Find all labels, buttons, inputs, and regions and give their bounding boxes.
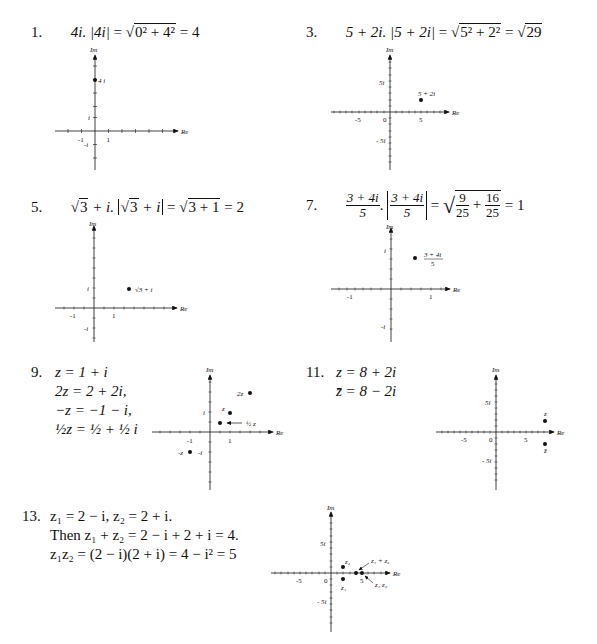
point-label: 4 i — [98, 77, 105, 85]
point-label: z — [543, 410, 547, 418]
point-label: z₁ z₂ — [374, 581, 388, 589]
graph-problem-9: Im Re -1 1 i -i 2z z ½ z -z — [152, 366, 283, 490]
re-axis-label: Re — [451, 109, 459, 117]
graph-problem-3: Im Re -5 0 5 5i - 5i 5 + 2i — [331, 46, 459, 170]
point-label: -z — [178, 449, 183, 457]
tick-label: 0 — [489, 436, 493, 444]
complex-plane-graphs: Im Re -1 1 i -i 4 i Im Re -5 0 5 5i - 5i… — [0, 0, 597, 644]
tick-label: 5i — [485, 399, 491, 407]
arrow-icon — [359, 563, 369, 570]
point-z — [543, 419, 547, 423]
point-label: ½ z — [246, 420, 256, 428]
point-2z — [248, 391, 252, 395]
point-label: z₁ — [340, 584, 346, 592]
tick-label: 5i — [379, 79, 385, 87]
tick-label: i — [87, 285, 89, 293]
point-label-denominator: 5 — [431, 260, 435, 268]
im-axis-label: Im — [385, 46, 393, 54]
tick-label: -i — [84, 325, 88, 333]
tick-label: 1 — [107, 136, 111, 144]
point-neg-z — [188, 450, 192, 454]
graph-problem-5: Im Re -1 1 i -i √3 + i — [55, 220, 187, 342]
re-axis-label: Re — [275, 429, 283, 437]
tick-label: i — [88, 114, 90, 122]
point-z1-times-z2 — [360, 571, 364, 575]
graph-problem-1: Im Re -1 1 i -i 4 i — [55, 46, 188, 170]
graph-problem-7: Im Re -1 1 i -i 3 + 4i 5 — [331, 223, 460, 342]
point-label: 2z — [237, 390, 244, 398]
tick-label: 5 — [524, 436, 528, 444]
tick-label: - 5i — [376, 137, 386, 145]
point-label: z₂ — [344, 558, 351, 566]
point-label: √3 + i — [135, 286, 153, 294]
tick-label: -5 — [296, 577, 302, 585]
graph-problem-11: Im Re -5 0 5 5i - 5i z z̄ — [436, 366, 564, 490]
im-axis-label: Im — [385, 223, 393, 231]
point-label: z̄ — [543, 447, 547, 455]
point-3-plus-4i-over-5 — [413, 256, 417, 260]
point-half-z — [218, 421, 222, 425]
tick-label: - 5i — [482, 457, 492, 465]
tick-label: -1 — [187, 437, 193, 445]
point-z1 — [341, 577, 345, 581]
im-axis-label: Im — [205, 366, 213, 374]
tick-label: 1 — [112, 312, 116, 320]
point-z — [228, 411, 232, 415]
tick-label: 5i — [320, 540, 326, 548]
tick-label: -i — [84, 141, 88, 149]
tick-label: 1 — [228, 437, 232, 445]
tick-label: i — [203, 409, 205, 417]
tick-label: -5 — [461, 436, 467, 444]
im-axis-label: Im — [326, 504, 334, 512]
tick-label: -i — [381, 323, 385, 331]
tick-label: -1 — [70, 312, 76, 320]
im-axis-label: Im — [88, 220, 96, 228]
tick-label: 0 — [324, 577, 328, 585]
tick-label: -1 — [347, 293, 353, 301]
point-4i — [93, 78, 97, 82]
tick-label: - 5i — [317, 598, 327, 606]
re-axis-label: Re — [452, 286, 460, 294]
point-label: z — [221, 405, 225, 413]
tick-label: 0 — [383, 116, 387, 124]
point-sqrt3-plus-i — [127, 287, 131, 291]
im-axis-label: Im — [491, 366, 499, 374]
tick-label: 5 — [360, 577, 364, 585]
graph-problem-13: Im Re -5 0 5 5i - 5i z₂ z₁ z₁ + z₂ z₁ z₂ — [271, 504, 400, 632]
re-axis-label: Re — [180, 128, 188, 136]
point-label: z₁ + z₂ — [370, 557, 390, 565]
tick-label: 1 — [429, 293, 433, 301]
tick-label: 5 — [419, 116, 423, 124]
re-axis-label: Re — [556, 429, 564, 437]
tick-label: -i — [198, 449, 202, 457]
re-axis-label: Re — [179, 305, 187, 313]
tick-label: i — [384, 247, 386, 255]
re-axis-label: Re — [392, 570, 400, 578]
point-label: 5 + 2i — [418, 90, 435, 98]
arrow-icon — [365, 576, 373, 583]
point-label-numerator: 3 + 4i — [423, 251, 441, 259]
point-5-plus-2i — [419, 98, 423, 102]
point-z-conjugate — [543, 442, 547, 446]
point-z1-plus-z2 — [354, 571, 358, 575]
im-axis-label: Im — [89, 46, 97, 54]
tick-label: -5 — [355, 116, 361, 124]
